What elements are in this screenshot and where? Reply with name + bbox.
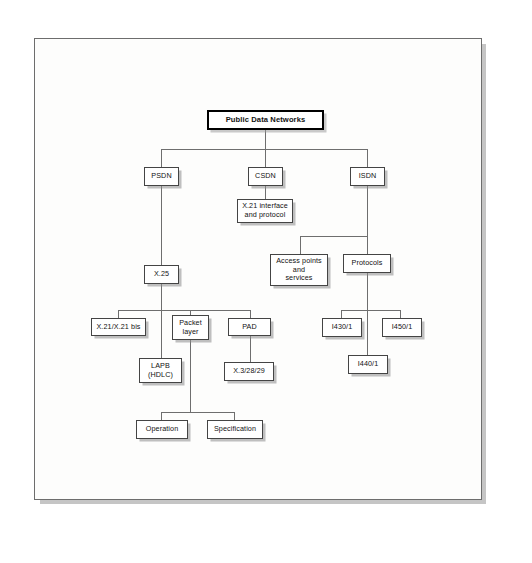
node-label: X.21 interface and protocol — [242, 202, 288, 219]
node-x21-x21-bis[interactable]: X.21/X.21 bis — [91, 318, 146, 336]
node-label: X.21/X.21 bis — [96, 323, 140, 332]
node-label: Packet layer — [179, 319, 202, 336]
connector-level1-bus — [161, 149, 367, 150]
connector-to-specification — [234, 412, 235, 420]
node-label: I430/1 — [332, 323, 353, 332]
node-x21-interface-and-protocol[interactable]: X.21 interface and protocol — [237, 199, 293, 223]
connector-to-psdn — [161, 149, 162, 167]
node-psdn[interactable]: PSDN — [144, 167, 179, 186]
node-access-points-and-services[interactable]: Access points and services — [270, 254, 328, 286]
connector-x25-bus — [118, 310, 250, 311]
connector-psdn-to-x25 — [161, 186, 162, 265]
node-label: ISDN — [359, 172, 377, 181]
connector-to-lapb — [161, 310, 162, 358]
node-label: Protocols — [352, 259, 383, 268]
connector-to-i440 — [367, 310, 368, 355]
connector-to-csdn — [265, 149, 266, 167]
node-label: PSDN — [151, 172, 171, 181]
connector-to-isdn — [367, 149, 368, 167]
connector-packet-layer-stem — [190, 340, 191, 412]
node-label: LAPB (HDLC) — [148, 362, 173, 379]
node-label: CSDN — [255, 172, 276, 181]
node-label: Access points and services — [276, 257, 322, 283]
node-i430-1[interactable]: I430/1 — [322, 318, 362, 337]
node-i440-1[interactable]: I440/1 — [348, 355, 388, 374]
connector-isdn-stem — [367, 186, 368, 236]
node-label: Public Data Networks — [226, 116, 306, 125]
node-label: PAD — [242, 323, 257, 332]
connector-to-i450 — [400, 310, 401, 318]
connector-isdn-bus — [300, 236, 368, 237]
connector-to-pad — [250, 310, 251, 318]
node-public-data-networks[interactable]: Public Data Networks — [207, 110, 324, 130]
node-lapb-hdlc[interactable]: LAPB (HDLC) — [139, 358, 182, 383]
connector-to-access-points — [300, 236, 301, 254]
node-x3-28-29[interactable]: X.3/28/29 — [224, 362, 274, 381]
node-pad[interactable]: PAD — [228, 318, 271, 336]
public-data-networks-tree-diagram: Public Data Networks PSDN CSDN ISDN X.21… — [0, 0, 532, 563]
connector-x25-stem — [161, 284, 162, 310]
node-label: Specification — [214, 425, 256, 434]
node-operation[interactable]: Operation — [136, 420, 188, 439]
node-isdn[interactable]: ISDN — [350, 167, 385, 186]
node-packet-layer[interactable]: Packet layer — [172, 315, 209, 340]
connector-to-protocols — [367, 236, 368, 254]
node-label: Operation — [146, 425, 178, 434]
node-i450-1[interactable]: I450/1 — [382, 318, 422, 337]
node-label: X.3/28/29 — [233, 367, 265, 376]
connector-packet-layer-bus — [161, 412, 234, 413]
connector-pad-to-x3 — [250, 336, 251, 362]
connector-protocols-bus — [341, 310, 400, 311]
node-specification[interactable]: Specification — [207, 420, 263, 439]
node-label: X.25 — [154, 270, 169, 279]
connector-root-stem — [265, 130, 266, 149]
connector-protocols-stem — [367, 273, 368, 310]
node-csdn[interactable]: CSDN — [248, 167, 283, 186]
connector-to-x21-bis — [118, 310, 119, 318]
node-protocols[interactable]: Protocols — [343, 254, 391, 273]
node-x25[interactable]: X.25 — [144, 265, 179, 284]
connector-to-i430 — [341, 310, 342, 318]
node-label: I450/1 — [392, 323, 413, 332]
node-label: I440/1 — [358, 360, 379, 369]
connector-csdn-to-x21-interface — [265, 186, 266, 199]
connector-to-operation — [161, 412, 162, 420]
